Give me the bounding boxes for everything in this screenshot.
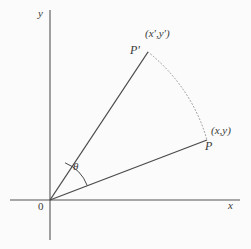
- coordinate-label-p-prime: (x',y'): [145, 28, 170, 39]
- segment-op-prime: [50, 52, 148, 200]
- point-label-p: P: [205, 140, 212, 152]
- origin-label: 0: [38, 201, 44, 212]
- rotation-figure: y x 0 P P' (x,y) (x',y') θ: [0, 0, 251, 249]
- point-label-p-prime: P': [130, 44, 140, 56]
- rotation-arc: [148, 52, 207, 140]
- angle-label-theta: θ: [73, 161, 78, 172]
- y-axis-label: y: [38, 8, 43, 19]
- x-axis-label: x: [228, 200, 233, 211]
- coordinate-label-p: (x,y): [211, 125, 231, 136]
